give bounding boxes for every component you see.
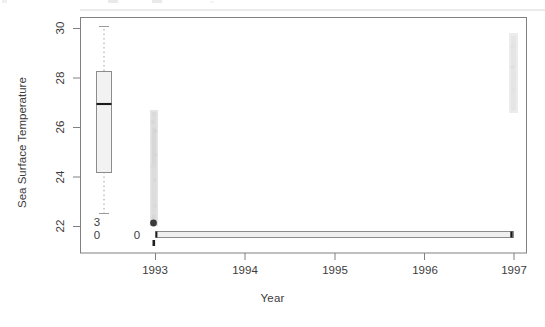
point-strip-1993 [150,110,158,226]
box-iqr [97,72,112,173]
year-lower-tick [153,240,156,246]
plot-area [0,0,545,327]
clipped-top-artifacts [2,0,214,3]
point-strip-1997 [509,33,518,113]
boxplot-year [150,220,513,246]
x-axis-ticks [156,253,515,260]
plot-frame [81,18,527,254]
year-box-iqr [156,232,514,238]
year-outlier-point [150,220,157,227]
chart-figure: Sea Surface Temperature Year 30 28 26 24… [0,0,545,327]
y-axis-ticks [73,29,80,227]
boxplot-temperature [97,27,112,214]
